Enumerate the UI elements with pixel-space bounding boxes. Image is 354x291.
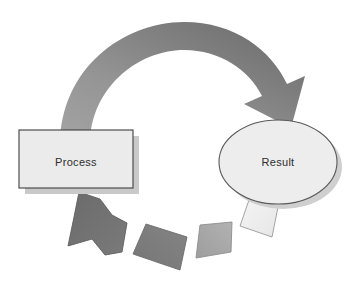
cycle-diagram-canvas: Process Result [0,0,354,291]
return-segment-2 [196,222,232,258]
return-arrow [68,192,127,255]
result-node[interactable]: Result [219,120,337,204]
result-label: Result [262,156,295,168]
cycle-diagram: Process Result [0,0,354,291]
process-label: Process [55,156,97,168]
process-node[interactable]: Process [19,130,133,188]
return-segment-3 [133,224,187,270]
